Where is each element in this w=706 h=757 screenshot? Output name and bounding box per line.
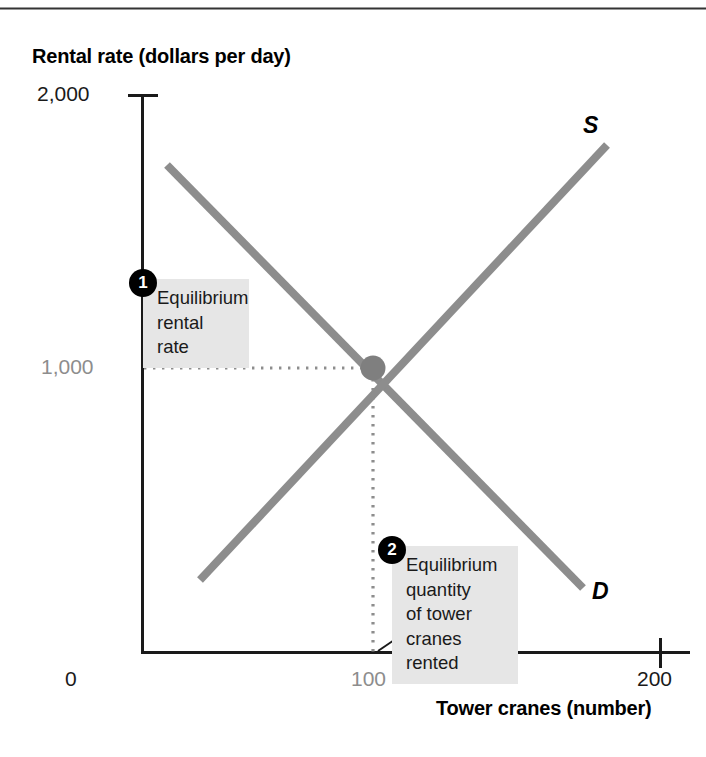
economics-figure: Rental rate (dollars per day) Tower cran… — [0, 0, 706, 757]
callout-2-line-3: of tower — [406, 602, 506, 627]
x-axis-title: Tower cranes (number) — [436, 697, 651, 720]
y-tick-label-2000: 2,000 — [37, 82, 90, 106]
supply-demand-plot — [0, 0, 706, 757]
callout-2-number-badge: 2 — [378, 536, 406, 564]
y-tick-label-1000: 1,000 — [41, 355, 94, 379]
callout-equilibrium-rental-rate: Equilibrium rental rate — [143, 279, 249, 368]
callout-2-line-4: cranes rented — [406, 627, 506, 676]
y-axis-title: Rental rate (dollars per day) — [32, 45, 291, 68]
callout-2-line-1: Equilibrium — [406, 553, 506, 578]
x-tick-label-100: 100 — [351, 667, 386, 691]
x-tick-label-200: 200 — [637, 667, 672, 691]
callout-1-line-1: Equilibrium — [157, 286, 237, 311]
demand-curve-label: D — [592, 578, 609, 605]
callout-2-line-2: quantity — [406, 578, 506, 603]
x-tick-label-0: 0 — [65, 667, 77, 691]
callout-1-number-badge: 1 — [129, 269, 157, 297]
equilibrium-point-marker — [361, 356, 386, 381]
callout-1-line-2: rental rate — [157, 311, 237, 360]
supply-curve — [200, 145, 607, 580]
supply-curve-label: S — [583, 112, 598, 139]
callout-equilibrium-quantity: Equilibrium quantity of tower cranes ren… — [392, 546, 518, 684]
